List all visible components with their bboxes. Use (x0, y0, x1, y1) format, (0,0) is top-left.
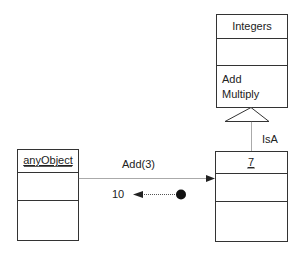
operation-multiply: Multiply (222, 88, 260, 100)
inheritance-triangle-icon (225, 108, 269, 122)
uml-object-diagram: Integers Add Multiply IsA 7 anyObject Ad… (0, 0, 298, 254)
class-integers[interactable]: Integers Add Multiply (217, 15, 288, 108)
return-arrowhead-icon (133, 191, 143, 198)
object-anyobject[interactable]: anyObject (18, 150, 79, 241)
operation-add: Add (222, 73, 242, 85)
isa-label: IsA (262, 133, 279, 145)
return-label: 10 (112, 188, 124, 200)
class-integers-name: Integers (232, 20, 272, 32)
object-anyobject-name: anyObject (23, 154, 73, 166)
object-seven-name: 7 (248, 156, 254, 168)
return-origin-dot-icon (176, 190, 186, 200)
arrowhead-icon (206, 175, 215, 182)
object-seven[interactable]: 7 (216, 152, 288, 242)
message-label: Add(3) (122, 158, 155, 170)
